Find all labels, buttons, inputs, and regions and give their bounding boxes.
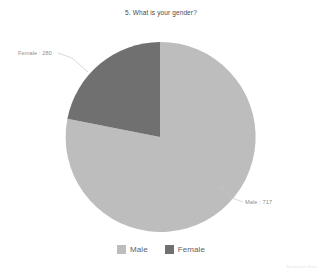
legend-item-female[interactable]: Female <box>165 245 205 254</box>
pie-chart-graphic <box>0 0 322 277</box>
slice-label-female: Female : 280 <box>18 50 52 56</box>
legend-label-male: Male <box>130 245 148 254</box>
pie-chart-figure: 5. What is your gender? Female : 280 Mal… <box>0 0 322 277</box>
slice-label-male: Male : 717 <box>245 199 272 205</box>
legend-item-male[interactable]: Male <box>117 245 148 254</box>
chart-legend: Male Female <box>0 245 322 254</box>
legend-swatch-male-icon <box>117 245 126 254</box>
watermark: Research Gate <box>286 264 317 269</box>
legend-swatch-female-icon <box>165 245 174 254</box>
leader-line-female <box>58 53 88 72</box>
legend-label-female: Female <box>178 245 205 254</box>
